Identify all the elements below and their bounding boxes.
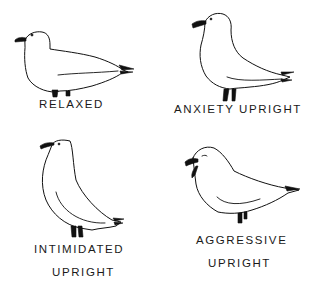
label-aggressive-upright-line2: UPRIGHT [208, 257, 271, 269]
bird-relaxed-drawing [15, 32, 134, 97]
label-intimidated-upright-line1: INTIMIDATED [34, 243, 124, 255]
label-intimidated-upright-line2: UPRIGHT [52, 266, 115, 278]
bird-anxiety-upright-drawing [192, 13, 294, 101]
label-relaxed: RELAXED [39, 98, 104, 110]
bird-aggressive-upright-drawing [185, 147, 300, 223]
label-anxiety-upright: ANXIETY UPRIGHT [174, 103, 302, 115]
bird-intimidated-upright-drawing [40, 140, 124, 237]
label-aggressive-upright-line1: AGGRESSIVE [196, 234, 287, 246]
